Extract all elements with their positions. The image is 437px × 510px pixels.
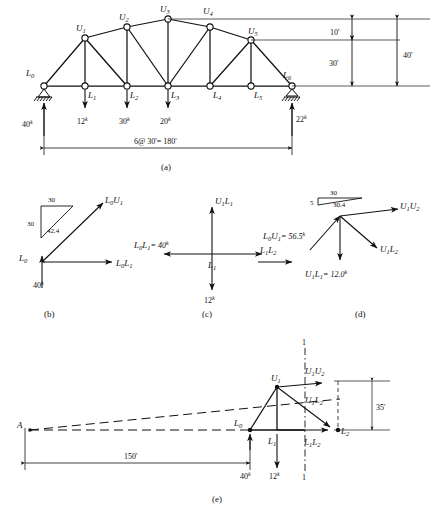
joint-L3 [165, 83, 171, 89]
panel-d-run-label: 30 [330, 189, 338, 197]
panel-d-left-b-sub: 2 [273, 249, 277, 256]
moment-center-label: A [16, 420, 23, 430]
top-chord-3-4 [168, 19, 210, 27]
svg-text:12k: 12k [77, 116, 88, 126]
vector-U1U2 [340, 209, 398, 216]
svg-text:L0: L0 [233, 418, 243, 429]
joint-L0-e [248, 428, 252, 432]
label-U3-sub: 3 [166, 8, 171, 15]
panel-d: 30 5 30.4 U1U2 L0U1= 56.5k L1L2 U1L2 U1L… [258, 189, 420, 319]
panel-b: 30 30 42.4 L0U1 L0L1 L0 40k (b) [18, 195, 133, 319]
panel-b-vectors [42, 203, 112, 288]
line-A-to-U1U2 [30, 399, 340, 430]
panel-c-vectors [164, 207, 262, 290]
top-chord-1-2 [85, 27, 127, 38]
reaction-value-L0: 40 [22, 120, 30, 129]
svg-text:L2: L2 [340, 426, 350, 437]
panel-e-reaction-unit: k [248, 471, 251, 477]
panel-e-reaction-value: 40 [240, 472, 248, 481]
force-U1U2 [277, 383, 322, 387]
panel-d-diag-b-sub: 2 [395, 248, 399, 255]
svg-text:L1L2: L1L2 [259, 245, 277, 256]
section-label-top: 1 [302, 338, 306, 347]
svg-text:L0: L0 [25, 68, 35, 79]
panel-c-up-b-sub: 1 [230, 200, 233, 207]
svg-text:U1: U1 [271, 373, 281, 384]
panel-d-hyp-label: 30.4 [333, 201, 346, 209]
panel-b-reaction-unit: k [41, 280, 44, 286]
label-L2-sub: 2 [135, 94, 139, 101]
panel-b-run-label: 30 [48, 196, 56, 204]
panel-b-caption: (b) [44, 309, 55, 319]
svg-text:U5: U5 [248, 26, 259, 37]
figure-svg: U1 U2 U3 U4 U5 L0 L1 L2 L3 L4 L5 L6 12k … [0, 0, 437, 510]
svg-text:L1: L1 [87, 90, 96, 101]
top-chord-0-1 [44, 38, 85, 86]
force-U1L2 [277, 387, 330, 427]
load-arrows [85, 90, 168, 108]
panel-d-right-b-sub: 2 [416, 205, 420, 212]
svg-text:U1L1= 12.0k: U1L1= 12.0k [305, 269, 347, 280]
panel-e-span-dimension [25, 428, 250, 470]
vector-U1L2 [340, 216, 377, 248]
svg-text:12k: 12k [269, 471, 280, 481]
panel-e-load-value: 12 [269, 472, 277, 481]
panel-c-load-unit: k [212, 295, 215, 301]
svg-text:U1U2: U1U2 [305, 366, 325, 377]
panel-c-joint-sub: 1 [213, 264, 216, 271]
svg-text:U1: U1 [76, 23, 86, 34]
svg-text:L1: L1 [267, 436, 276, 447]
panel-c: U1L1 L0L1= 40k L1 12k (c) [133, 196, 262, 319]
panel-d-vert-unit: k [344, 269, 347, 275]
top-chord-4-5 [210, 27, 251, 40]
panel-d-vert-value: = 12.0 [323, 270, 344, 279]
dim-30ft-label: 30' [329, 59, 339, 68]
panel-e-construction-lines [30, 399, 340, 430]
panel-b-joint-sub: 0 [24, 257, 28, 264]
svg-text:L0L1= 40k: L0L1= 40k [133, 240, 169, 251]
svg-text:22k: 22k [296, 114, 307, 124]
panel-e-m1-b-sub: 2 [320, 399, 324, 406]
panel-c-left-value: = 40 [151, 241, 166, 250]
svg-text:L0: L0 [18, 253, 28, 264]
dim-150ft-label: 150' [124, 452, 138, 461]
panel-c-load-value: 12 [204, 296, 212, 305]
section-label-bottom: 1 [302, 473, 306, 482]
svg-text:L1L2: L1L2 [303, 437, 321, 448]
panel-e-L0-sub: 0 [239, 422, 243, 429]
panel-b-member-right-b-sub: 1 [129, 262, 132, 269]
svg-text:L6: L6 [282, 70, 292, 81]
load-unit-L3: k [168, 116, 171, 122]
load-value-L2: 30 [119, 117, 127, 126]
diagonal-U2-L3 [127, 27, 168, 86]
panel-d-incoming-unit: k [302, 231, 305, 237]
vector-L0U1 [310, 216, 340, 250]
joint-U1 [82, 35, 88, 41]
panel-d-incoming-value: = 56.5 [281, 232, 302, 241]
panel-e-load-unit: k [277, 471, 280, 477]
member-L0-U1 [250, 387, 277, 430]
svg-text:U1L1: U1L1 [215, 196, 233, 207]
label-L3-sub: 3 [175, 94, 180, 101]
load-unit-L1: k [85, 116, 88, 122]
panel-e-m0-b-sub: 2 [321, 370, 325, 377]
label-U1-sub: 1 [83, 27, 86, 34]
svg-text:20k: 20k [160, 116, 171, 126]
panel-d-rise-label: 5 [310, 199, 314, 207]
label-L5-sub: 5 [259, 94, 263, 101]
vertical-dimensions [352, 19, 397, 86]
load-value-L3: 20 [160, 117, 168, 126]
panel-e-L2-sub: 2 [346, 430, 350, 437]
panel-e-caption: (e) [212, 494, 222, 504]
svg-text:L2: L2 [129, 90, 139, 101]
joint-L1 [82, 83, 88, 89]
panel-b-hyp-label: 42.4 [47, 227, 60, 235]
panel-b-member-up-b-sub: 1 [120, 199, 123, 206]
reaction-value-L6: 22 [296, 115, 304, 124]
panel-e-m2-b-sub: 2 [317, 441, 321, 448]
panel-a-caption: (a) [161, 162, 171, 172]
label-U2-sub: 2 [126, 16, 130, 23]
joint-L4 [207, 83, 213, 89]
diagonal-U1-L2 [85, 38, 127, 86]
svg-text:U1L2: U1L2 [305, 395, 324, 406]
